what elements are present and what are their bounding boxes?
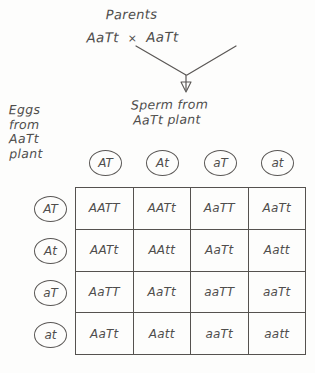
punnett-cell: AATt (76, 230, 134, 272)
punnett-cell: aaTt (249, 272, 307, 314)
punnett-cell: AAtt (134, 230, 192, 272)
punnett-cell: Aatt (134, 313, 192, 355)
cross-symbol: × (119, 32, 147, 45)
row-gamete-2: At (34, 238, 67, 264)
punnett-cell: Aatt (249, 230, 307, 272)
eggs-label-line4: plant (9, 146, 43, 161)
father-genotype: AaTt (146, 29, 178, 45)
punnett-cell: AATT (76, 188, 134, 230)
eggs-label-line1: Eggs (9, 103, 43, 118)
punnett-cell: AaTt (191, 230, 249, 272)
column-gamete-3: aT (204, 150, 237, 176)
punnett-cell: AaTt (134, 272, 192, 314)
punnett-cell: aaTt (191, 313, 249, 355)
column-gamete-4: at (261, 150, 294, 176)
egg-source-label: EggsfromAaTtplant (9, 103, 43, 161)
mother-genotype: AaTt (86, 29, 118, 45)
sperm-source-label: Sperm fromAaTt plant (131, 96, 209, 127)
punnett-grid: AATT AATt AaTT AaTt AATt AAtt AaTt Aatt … (75, 187, 306, 355)
punnett-cell: aatt (249, 313, 307, 355)
punnett-cell: aaTT (191, 272, 249, 314)
row-gamete-4: at (34, 322, 67, 348)
punnett-cell: AATt (134, 188, 192, 230)
parents-title: Parents (0, 5, 289, 23)
sperm-label-line1: Sperm from (131, 96, 208, 112)
sperm-label-line2: AaTt plant (133, 111, 208, 127)
row-gamete-3: aT (34, 280, 67, 306)
punnett-square-diagram: Parents AaTt×AaTt Sperm fromAaTt plant E… (0, 0, 315, 373)
parent-cross-row: AaTt×AaTt (0, 28, 290, 47)
column-gamete-2: At (146, 150, 179, 176)
eggs-label-line3: AaTt (9, 132, 43, 147)
column-gamete-1: AT (89, 150, 122, 176)
punnett-cell: AaTT (76, 272, 134, 314)
row-gamete-1: AT (34, 196, 67, 222)
punnett-cell: AaTt (76, 313, 134, 355)
punnett-cell: AaTt (249, 188, 307, 230)
punnett-cell: AaTT (191, 188, 249, 230)
